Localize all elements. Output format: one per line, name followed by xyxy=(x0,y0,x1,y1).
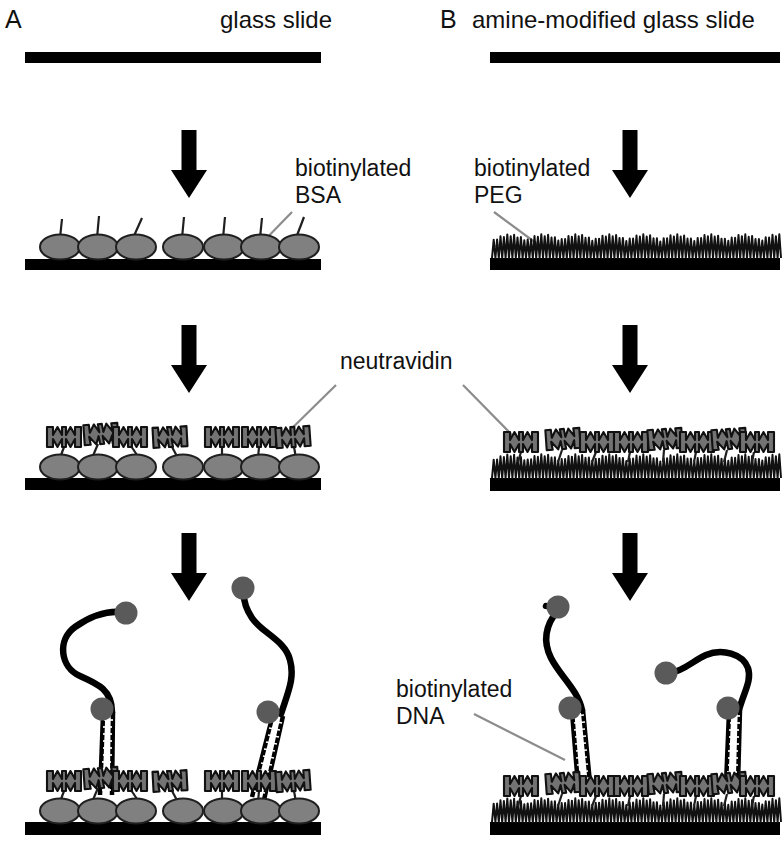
panel-a-glass-slide-bar xyxy=(25,52,321,63)
bsa-blobs-a-step4 xyxy=(40,799,319,824)
dna-single-strand xyxy=(244,590,292,714)
dna-fluorophore-bead xyxy=(655,662,678,685)
figure-root: A glass slide B amine-modified glass sli… xyxy=(0,0,784,854)
panel-a-bsa-layer xyxy=(25,216,321,270)
panel-b-slide-bar-step4 xyxy=(490,822,780,835)
peg-brush xyxy=(492,234,781,258)
dna-fluorophore-bead xyxy=(115,602,138,625)
dna-molecule-b-1 xyxy=(546,596,590,786)
arrow-step3-a xyxy=(171,533,207,601)
arrow-step3-b xyxy=(612,533,648,601)
diagram-canvas xyxy=(0,0,784,854)
arrow-step2-b xyxy=(612,325,648,393)
panel-b-neutravidin-layer xyxy=(490,428,781,491)
dna-biotin-bead-anchor xyxy=(559,697,582,720)
panel-b-glass-slide-bar xyxy=(490,52,780,63)
dna-biotin-bead-anchor xyxy=(717,697,740,720)
panel-a-slide-bar-step4 xyxy=(25,822,321,835)
dna-single-strand xyxy=(63,612,122,712)
dna-molecule-b-2 xyxy=(655,652,750,785)
panel-b-dna-layer xyxy=(490,596,781,836)
neutravidin-glyphs-a xyxy=(47,423,311,448)
dna-molecule-a-2 xyxy=(232,577,292,801)
arrow-step1-b xyxy=(612,130,648,198)
leader-line-neutravidin-right xyxy=(463,385,515,438)
arrow-step1-a xyxy=(171,130,207,198)
panel-b-peg-layer xyxy=(490,234,781,270)
leader-line-dna xyxy=(474,714,565,760)
dna-molecule-a-1 xyxy=(63,602,137,796)
neutravidin-glyphs-b-step4 xyxy=(504,772,774,796)
dna-fluorophore-bead xyxy=(547,596,570,619)
arrow-step2-a xyxy=(171,325,207,393)
peg-brush xyxy=(492,454,781,478)
neutravidin-glyphs-b xyxy=(504,428,774,452)
dna-biotin-bead-anchor xyxy=(91,698,114,721)
panel-a-slide-bar-step2 xyxy=(25,259,321,270)
dna-biotin-bead-anchor xyxy=(257,701,280,724)
panel-a-neutravidin-layer xyxy=(25,423,321,490)
bsa-blobs-a xyxy=(40,235,319,260)
dna-single-strand xyxy=(546,605,582,710)
dna-fluorophore-bead xyxy=(232,577,255,600)
bsa-blobs-a-step3 xyxy=(40,455,319,480)
neutravidin-glyphs-a-step4 xyxy=(47,767,311,792)
panel-a-dna-layer xyxy=(25,577,321,836)
panel-b-slide-bar-step2 xyxy=(490,258,780,270)
panel-a-slide-bar-step3 xyxy=(25,478,321,490)
peg-brush xyxy=(492,798,781,822)
panel-b-slide-bar-step3 xyxy=(490,478,780,491)
